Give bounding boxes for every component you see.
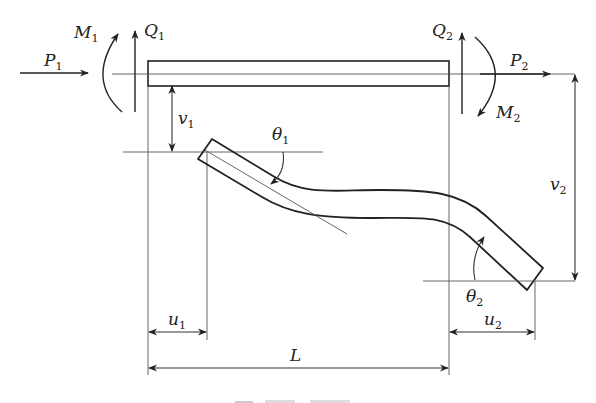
- u1-label: u1: [168, 309, 186, 332]
- m2-label: M2: [495, 102, 520, 125]
- m2-moment-arrow: [475, 37, 495, 116]
- q2-label: Q2: [432, 20, 453, 43]
- beam-element-diagram: P1 M1 Q1 Q2 M2 P2 v1 θ1 θ2: [0, 0, 596, 403]
- q1-label: Q1: [144, 20, 165, 43]
- m1-moment-arrow: [103, 34, 122, 112]
- theta1-label: θ1: [272, 124, 289, 147]
- theta2-angle-arc: [474, 237, 484, 280]
- theta2-label: θ2: [466, 286, 483, 309]
- p1-label: P1: [43, 50, 62, 73]
- deformed-beam: [198, 139, 543, 290]
- length-label: L: [289, 345, 301, 365]
- v1-label: v1: [178, 108, 195, 131]
- left-tangent-line: [205, 150, 347, 234]
- m1-label: M1: [73, 22, 98, 45]
- u2-label: u2: [484, 309, 502, 332]
- p2-label: P2: [509, 50, 528, 73]
- v2-label: v2: [550, 174, 567, 197]
